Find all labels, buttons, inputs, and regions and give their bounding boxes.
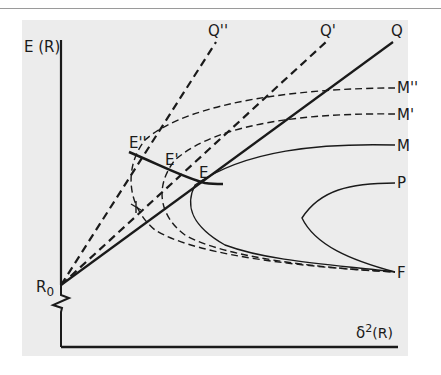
line-Q-double-prime [61, 42, 216, 285]
efficient-frontier-diagram: E (R) δ2(R) R0 Q'' Q' Q M'' M' M P F E''… [0, 0, 441, 375]
axes [53, 40, 398, 347]
curve-M-double-prime [131, 88, 395, 272]
label-E-double-prime: E'' [129, 134, 147, 152]
label-F: F [397, 264, 406, 282]
y-axis-label: E (R) [24, 38, 60, 56]
label-P: P [397, 174, 406, 192]
capital-lines [61, 42, 393, 285]
origin-label: R0 [36, 278, 54, 299]
x-axis-label: δ2(R) [356, 322, 393, 342]
label-Q: Q [391, 22, 403, 40]
label-M: M [397, 137, 410, 155]
label-E-prime: E' [165, 151, 179, 169]
curve-P [302, 183, 395, 272]
frontier-curves [131, 88, 395, 272]
label-Q-double-prime: Q'' [208, 22, 228, 40]
label-Q-prime: Q' [320, 22, 336, 40]
line-Q [61, 42, 393, 285]
curve-M-prime [162, 114, 395, 272]
line-Q-prime [61, 42, 326, 285]
axis-break-zigzag [53, 285, 69, 347]
label-M-double-prime: M'' [397, 79, 418, 97]
label-M-prime: M' [397, 106, 414, 124]
label-E: E [199, 164, 208, 182]
